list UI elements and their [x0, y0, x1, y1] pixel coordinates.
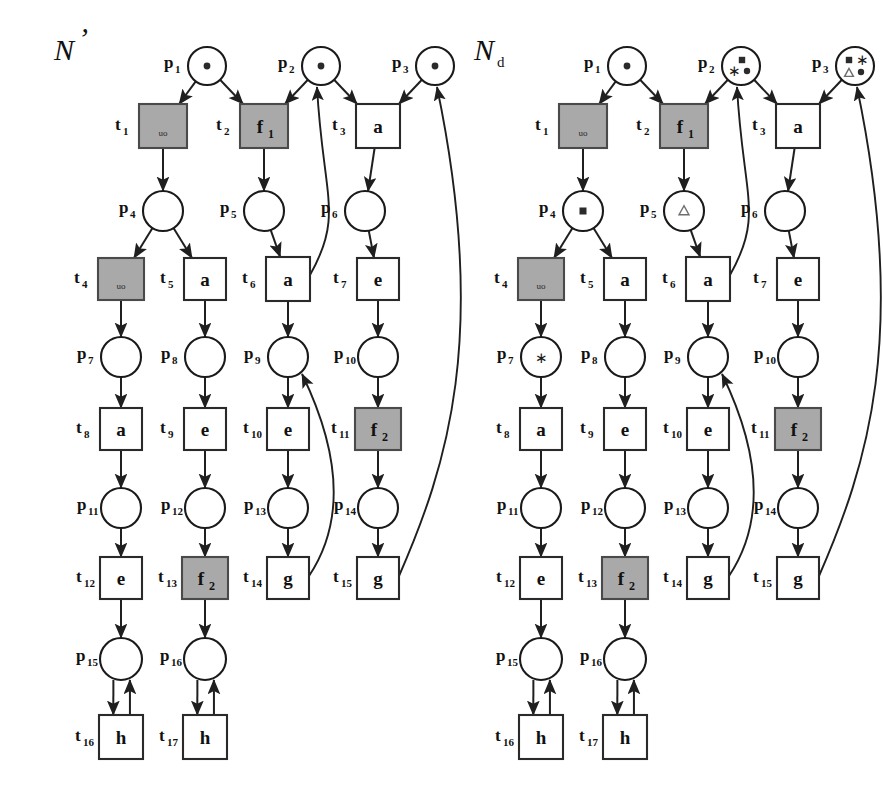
place-p13[interactable]: p13	[244, 488, 308, 528]
place-p16[interactable]: p16	[160, 638, 226, 680]
transition-t13[interactable]: f2t13	[578, 557, 648, 599]
transition-t8[interactable]: at8	[76, 408, 142, 450]
place-p3[interactable]: ∗p3	[812, 47, 874, 85]
place-p3[interactable]: p3	[392, 47, 454, 85]
place-circle	[184, 638, 226, 680]
arc-p1-t1	[599, 81, 616, 104]
place-circle	[521, 488, 561, 528]
place-p12[interactable]: p12	[161, 488, 225, 528]
transition-t4[interactable]: uot4	[74, 258, 144, 300]
place-p4[interactable]: p4	[539, 191, 603, 231]
place-p10[interactable]: p10	[334, 337, 398, 377]
transition-t3[interactable]: at3	[752, 104, 820, 148]
transition-t16[interactable]: ht16	[75, 715, 143, 759]
place-label-subscript: 12	[592, 505, 604, 517]
transition-label: t	[216, 115, 222, 134]
place-p16[interactable]: p16	[580, 638, 646, 680]
transition-t1[interactable]: uot1	[535, 104, 607, 148]
transition-t9[interactable]: et9	[580, 408, 646, 450]
transition-t5[interactable]: at5	[580, 258, 646, 300]
transition-label: t	[243, 567, 249, 586]
place-p8[interactable]: p8	[161, 337, 225, 377]
place-p6[interactable]: p6	[741, 191, 805, 231]
transition-label-subscript: 10	[671, 428, 683, 440]
transition-t17[interactable]: ht17	[579, 715, 647, 759]
transition-box	[559, 104, 607, 148]
place-p7[interactable]: ∗p7	[497, 337, 561, 377]
place-p4[interactable]: p4	[119, 191, 183, 231]
token-asterisk-icon: ∗	[535, 350, 548, 366]
place-label: p	[244, 344, 253, 363]
transition-t11[interactable]: f2t11	[751, 408, 821, 450]
transition-inner-label: h	[536, 727, 547, 748]
transition-t4[interactable]: uot4	[494, 258, 564, 300]
place-p5[interactable]: p5	[640, 191, 704, 231]
transition-t10[interactable]: et10	[663, 408, 729, 450]
place-p12[interactable]: p12	[581, 488, 645, 528]
transition-t8[interactable]: at8	[496, 408, 562, 450]
transition-inner-label: a	[283, 269, 293, 290]
transition-t15[interactable]: gt15	[753, 557, 819, 599]
place-p2[interactable]: ∗p2	[698, 47, 760, 85]
place-label: p	[741, 198, 750, 217]
transition-t17[interactable]: ht17	[159, 715, 227, 759]
transition-box	[518, 258, 564, 300]
transition-label: t	[663, 567, 669, 586]
place-p2[interactable]: p2	[278, 47, 340, 85]
transition-label-subscript: 2	[644, 125, 650, 137]
transition-t5[interactable]: at5	[160, 258, 226, 300]
token-asterisk-icon: ∗	[728, 63, 741, 79]
place-p13[interactable]: p13	[664, 488, 728, 528]
place-label-subscript: 10	[765, 354, 777, 366]
place-label: p	[321, 198, 330, 217]
place-label-subscript: 3	[823, 63, 829, 75]
place-p15[interactable]: p15	[496, 638, 562, 680]
place-p5[interactable]: p5	[220, 191, 284, 231]
transition-t6[interactable]: at6	[662, 257, 730, 301]
place-p7[interactable]: p7	[77, 337, 141, 377]
place-label-subscript: 11	[88, 505, 98, 517]
transition-t15[interactable]: gt15	[333, 557, 399, 599]
place-p15[interactable]: p15	[76, 638, 142, 680]
transition-box	[775, 408, 821, 450]
arc-p4-t4	[134, 228, 153, 258]
place-p1[interactable]: p1	[164, 47, 226, 85]
transition-t14[interactable]: gt14	[663, 557, 729, 599]
transition-t14[interactable]: gt14	[243, 557, 309, 599]
place-label: p	[497, 495, 506, 514]
place-label: p	[77, 344, 86, 363]
place-p11[interactable]: p11	[77, 488, 141, 528]
transition-t7[interactable]: et7	[753, 258, 819, 300]
place-p14[interactable]: p14	[334, 488, 398, 528]
transition-t9[interactable]: et9	[160, 408, 226, 450]
transition-t2[interactable]: f1t2	[636, 104, 708, 148]
place-p10[interactable]: p10	[754, 337, 818, 377]
transition-t10[interactable]: et10	[243, 408, 309, 450]
place-label: p	[392, 53, 401, 72]
transition-t16[interactable]: ht16	[495, 715, 563, 759]
transition-label: t	[159, 726, 165, 745]
transition-label-subscript: 17	[167, 736, 179, 748]
place-p9[interactable]: p9	[664, 337, 728, 377]
transition-t12[interactable]: et12	[76, 557, 142, 599]
transition-label: t	[243, 418, 249, 437]
transition-t3[interactable]: at3	[332, 104, 400, 148]
place-p8[interactable]: p8	[581, 337, 645, 377]
place-p6[interactable]: p6	[321, 191, 385, 231]
place-p14[interactable]: p14	[754, 488, 818, 528]
transition-t7[interactable]: et7	[333, 258, 399, 300]
place-p1[interactable]: p1	[584, 47, 646, 85]
place-p11[interactable]: p11	[497, 488, 561, 528]
token-asterisk-icon: ∗	[856, 52, 869, 68]
transition-t11[interactable]: f2t11	[331, 408, 401, 450]
transition-t13[interactable]: f2t13	[158, 557, 228, 599]
place-label-subscript: 11	[508, 505, 518, 517]
transition-t6[interactable]: at6	[242, 257, 310, 301]
transition-inner-label: e	[704, 419, 712, 440]
place-p9[interactable]: p9	[244, 337, 308, 377]
transition-label-subscript: 9	[168, 428, 174, 440]
transition-t1[interactable]: uot1	[115, 104, 187, 148]
arc-p6-t7	[369, 231, 374, 258]
transition-t12[interactable]: et12	[496, 557, 562, 599]
transition-t2[interactable]: f1t2	[216, 104, 288, 148]
